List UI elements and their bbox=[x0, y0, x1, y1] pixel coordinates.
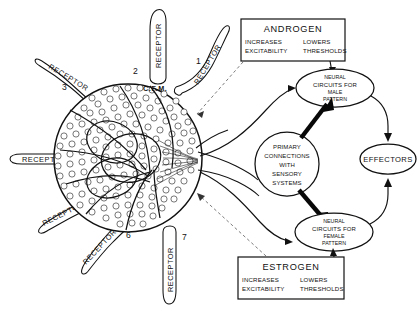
male-line-4: PATTERN bbox=[323, 96, 347, 102]
androgen-effect-left-1: INCREASES bbox=[245, 38, 282, 45]
arrowhead bbox=[197, 111, 204, 118]
estrogen-effect-right-1: LOWERS bbox=[300, 276, 328, 283]
receptor-2-number: 2 bbox=[133, 66, 138, 76]
androgen-title: ANDROGEN bbox=[264, 24, 323, 34]
arrowhead bbox=[384, 133, 392, 142]
androgen-effect-right-2: THRESHOLDS bbox=[303, 47, 347, 54]
receptor-7-label: RECEPTOR bbox=[166, 247, 175, 292]
male-line-2: CIRCUITS FOR bbox=[313, 82, 357, 88]
receptor-1-number: 1 bbox=[196, 56, 201, 66]
androgen-effect-right-1: LOWERS bbox=[303, 38, 331, 45]
common-final-mass: C.F.M. bbox=[54, 84, 202, 232]
figure-canvas: RECEPTOR 2 RECEPTOR 1 RECEPTOR 3 RECEPTO… bbox=[0, 0, 420, 311]
receptor-2: RECEPTOR 2 bbox=[133, 10, 166, 85]
arrowhead bbox=[384, 178, 392, 187]
primary-line-4: SENSORY bbox=[272, 171, 302, 177]
arrowhead bbox=[197, 193, 205, 201]
primary-connections-node: PRIMARY CONNECTIONS WITH SENSORY SYSTEMS bbox=[255, 132, 319, 196]
receptor-1: RECEPTOR 1 bbox=[174, 26, 229, 96]
arrowhead bbox=[285, 238, 293, 245]
receptor-3-number: 3 bbox=[62, 82, 67, 92]
cfm-label: C.F.M. bbox=[143, 84, 167, 93]
primary-line-5: SYSTEMS bbox=[272, 180, 301, 186]
receptor-3-label: RECEPTOR bbox=[47, 62, 90, 93]
estrogen-to-mass-arrow bbox=[197, 193, 266, 256]
receptor-7-number: 7 bbox=[182, 232, 187, 242]
receptor-2-label: RECEPTOR bbox=[154, 23, 163, 68]
androgen-effect-left-2: EXCITABILITY bbox=[245, 47, 288, 54]
primary-line-2: CONNECTIONS bbox=[264, 153, 309, 159]
receptor-6-label: RECEPTOR bbox=[81, 227, 118, 266]
diagram-svg: RECEPTOR 2 RECEPTOR 1 RECEPTOR 3 RECEPTO… bbox=[0, 0, 420, 311]
female-line-2: CIRCUITS FOR bbox=[312, 226, 356, 232]
estrogen-effect-left-2: EXCITABILITY bbox=[242, 285, 285, 292]
estrogen-effect-right-2: THRESHOLDS bbox=[300, 285, 344, 292]
effectors-label: EFFECTORS bbox=[363, 155, 412, 164]
androgen-box: ANDROGEN INCREASES EXCITABILITY LOWERS T… bbox=[241, 19, 347, 61]
estrogen-title: ESTROGEN bbox=[262, 262, 319, 272]
receptor-7: RECEPTOR 7 bbox=[163, 226, 187, 304]
effectors-node: EFFECTORS bbox=[360, 144, 416, 174]
primary-line-3: WITH bbox=[279, 162, 295, 168]
estrogen-effect-left-1: INCREASES bbox=[242, 276, 279, 283]
arrowhead bbox=[288, 85, 296, 92]
male-line-1: NEURAL bbox=[324, 74, 346, 80]
estrogen-box: ESTROGEN INCREASES EXCITABILITY LOWERS T… bbox=[238, 257, 344, 299]
female-line-3: FEMALE bbox=[323, 233, 345, 239]
male-to-effectors-arrow bbox=[371, 96, 392, 142]
primary-line-1: PRIMARY bbox=[273, 144, 301, 150]
male-line-3: MALE bbox=[328, 89, 343, 95]
female-line-1: NEURAL bbox=[323, 218, 345, 224]
female-circuits-node: NEURAL CIRCUITS FOR FEMALE PATTERN bbox=[295, 213, 373, 251]
female-to-effectors-arrow bbox=[370, 178, 392, 224]
male-circuits-node: NEURAL CIRCUITS FOR MALE PATTERN bbox=[296, 69, 374, 107]
female-line-4: PATTERN bbox=[322, 240, 346, 246]
